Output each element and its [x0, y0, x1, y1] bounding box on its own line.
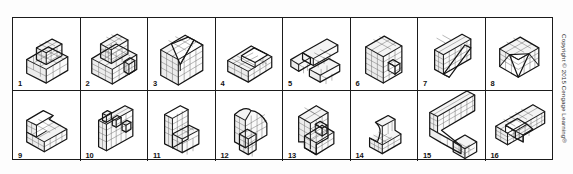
isometric-objects-grid: 1 [12, 17, 553, 160]
shape-v-notched-block [148, 18, 215, 90]
grid-row-top: 1 [13, 18, 552, 90]
figure-cell-6[interactable]: 6 [350, 18, 418, 90]
figure-number-10: 10 [86, 152, 94, 160]
figure-cell-3[interactable]: 3 [147, 18, 215, 90]
figure-number-5: 5 [288, 80, 292, 88]
figure-cell-10[interactable]: 10 [80, 91, 148, 162]
shape-block-with-angled-slot [216, 18, 283, 90]
copyright-notice: Copyright © 2015 Cengage Learning® [557, 17, 571, 160]
figure-number-9: 9 [18, 152, 22, 160]
figure-number-4: 4 [221, 80, 225, 88]
figure-root: 1 [0, 0, 573, 174]
figure-number-6: 6 [356, 80, 360, 88]
figure-number-14: 14 [356, 152, 364, 160]
figure-cell-7[interactable]: 7 [417, 18, 485, 90]
figure-number-2: 2 [86, 80, 90, 88]
shape-l-shaped-angled-block [13, 91, 80, 162]
grid-row-bottom: 9 [13, 90, 552, 162]
figure-cell-12[interactable]: 12 [215, 91, 283, 162]
figure-cell-15[interactable]: 15 [417, 91, 485, 162]
figure-number-12: 12 [221, 152, 229, 160]
figure-number-16: 16 [491, 152, 499, 160]
figure-cell-4[interactable]: 4 [215, 18, 283, 90]
shape-z-shaped-offset-bars [283, 18, 350, 90]
figure-cell-9[interactable]: 9 [13, 91, 80, 162]
figure-number-7: 7 [423, 80, 427, 88]
shape-stepped-block-with-notch [81, 18, 148, 90]
shape-cube-with-triangular-cut [486, 18, 553, 90]
copyright-text: Copyright © 2015 Cengage Learning® [561, 34, 568, 143]
shape-c-channel-upright-block [351, 18, 418, 90]
figure-cell-13[interactable]: 13 [282, 91, 350, 162]
figure-number-8: 8 [491, 80, 495, 88]
figure-cell-14[interactable]: 14 [350, 91, 418, 162]
figure-cell-1[interactable]: 1 [13, 18, 80, 90]
figure-number-13: 13 [288, 152, 296, 160]
shape-plate-with-diagonal-rib [418, 18, 485, 90]
figure-number-11: 11 [153, 152, 161, 160]
figure-cell-5[interactable]: 5 [282, 18, 350, 90]
figure-cell-2[interactable]: 2 [80, 18, 148, 90]
figure-cell-16[interactable]: 16 [485, 91, 553, 162]
figure-number-15: 15 [423, 152, 431, 160]
figure-number-1: 1 [18, 80, 22, 88]
figure-number-3: 3 [153, 80, 157, 88]
figure-cell-8[interactable]: 8 [485, 18, 553, 90]
shape-two-tier-stepped-block [13, 18, 80, 90]
figure-cell-11[interactable]: 11 [147, 91, 215, 162]
